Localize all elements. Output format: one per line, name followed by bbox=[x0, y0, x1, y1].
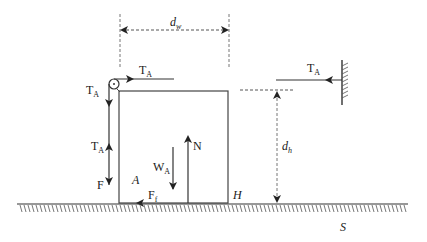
h-label: H bbox=[232, 188, 243, 202]
f-label: F bbox=[97, 178, 104, 192]
ta-right-label: TA bbox=[307, 61, 320, 77]
arrow-up-icon bbox=[273, 91, 281, 99]
rope-left: TA TA F bbox=[86, 83, 113, 192]
n-label: N bbox=[193, 139, 202, 153]
wall-anchor bbox=[342, 60, 348, 105]
free-body-diagram: dw TA TA TA F WA N A Ff bbox=[0, 0, 427, 242]
rope-right: TA bbox=[276, 61, 342, 84]
weight-force: WA bbox=[153, 147, 177, 190]
ff-label: Ff bbox=[148, 188, 158, 204]
dw-dimension: dw bbox=[120, 14, 229, 68]
dh-dimension: dh bbox=[240, 90, 293, 203]
ta-left-up-label: TA bbox=[91, 139, 104, 155]
arrow-down-icon bbox=[273, 195, 281, 203]
block-a-label: A bbox=[131, 173, 140, 187]
pulley bbox=[109, 79, 120, 92]
dw-label: dw bbox=[170, 15, 182, 31]
rope-top: TA bbox=[114, 63, 174, 83]
ta-left-label: TA bbox=[86, 83, 99, 99]
ta-top-label: TA bbox=[139, 63, 152, 79]
dh-label: dh bbox=[282, 139, 292, 155]
ground-surface bbox=[17, 204, 408, 212]
surface-s-label: S bbox=[340, 220, 346, 234]
wa-label: WA bbox=[153, 160, 170, 176]
normal-force: N bbox=[184, 135, 202, 203]
